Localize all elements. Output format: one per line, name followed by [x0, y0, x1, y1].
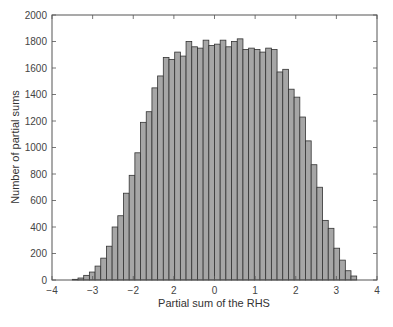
- x-tick-label: −2: [128, 285, 140, 296]
- histogram-bar: [106, 246, 112, 280]
- histogram-bar: [112, 227, 118, 280]
- x-tick-label: −4: [46, 285, 58, 296]
- histogram-bar: [306, 141, 312, 280]
- histogram-bar: [328, 228, 334, 280]
- histogram-bar: [232, 42, 238, 281]
- histogram-bar: [95, 266, 101, 280]
- x-axis-label: Partial sum of the RHS: [158, 297, 270, 309]
- histogram-bar: [203, 40, 209, 280]
- histogram-bar: [84, 275, 90, 280]
- y-tick-label: 600: [30, 195, 47, 206]
- x-tick-label: 2: [293, 285, 299, 296]
- histogram-bar: [215, 44, 221, 280]
- histogram-bar: [283, 69, 289, 280]
- y-axis-label: Number of partial sums: [9, 90, 21, 204]
- x-tick-label: 2: [171, 285, 177, 296]
- histogram-bar: [334, 248, 340, 280]
- histogram-bar: [351, 276, 357, 280]
- y-tick-label: 1000: [25, 142, 48, 153]
- x-tick-label: 0: [212, 285, 218, 296]
- y-tick-label: 0: [41, 275, 47, 286]
- histogram-bar: [175, 52, 181, 280]
- y-tick-label: 200: [30, 248, 47, 259]
- histogram-bar: [118, 216, 124, 280]
- histogram-bar: [141, 122, 147, 280]
- histogram-bar: [288, 89, 294, 280]
- x-tick-label: −3: [87, 285, 99, 296]
- x-tick-label: 1: [252, 285, 258, 296]
- x-tick-label: 3: [334, 285, 340, 296]
- histogram-bar: [345, 271, 351, 280]
- histogram-bar: [169, 59, 175, 280]
- histogram-bar: [260, 52, 266, 280]
- histogram-bar: [266, 48, 272, 280]
- histogram-bar: [129, 175, 135, 280]
- y-tick-label: 1800: [25, 36, 48, 47]
- histogram-bar: [254, 49, 260, 280]
- histogram-bar: [317, 187, 323, 280]
- histogram-bar: [192, 47, 198, 280]
- histogram-bar: [243, 49, 249, 280]
- histogram-bar: [340, 260, 346, 280]
- histogram-bar: [146, 112, 152, 280]
- histogram-bar: [277, 72, 283, 280]
- histogram-bar: [300, 117, 306, 280]
- y-tick-label: 2000: [25, 10, 48, 21]
- histogram-bar: [158, 76, 164, 280]
- histogram-bar: [249, 48, 255, 280]
- histogram-bar: [323, 220, 329, 280]
- histogram-bars: [72, 39, 356, 280]
- histogram-bar: [101, 258, 107, 280]
- histogram-bar: [220, 40, 226, 280]
- histogram-bar: [226, 47, 232, 280]
- histogram-bar: [152, 88, 158, 280]
- histogram-bar: [124, 193, 130, 280]
- histogram-chart: 0200400600800100012001400160018002000 −4…: [0, 0, 393, 327]
- histogram-bar: [197, 48, 203, 280]
- histogram-bar: [237, 39, 243, 280]
- histogram-bar: [271, 49, 277, 280]
- x-tick-label: 4: [374, 285, 380, 296]
- y-tick-label: 400: [30, 222, 47, 233]
- y-tick-label: 1400: [25, 89, 48, 100]
- y-tick-label: 1200: [25, 116, 48, 127]
- histogram-bar: [180, 56, 186, 280]
- histogram-bar: [209, 45, 215, 280]
- y-tick-label: 1600: [25, 63, 48, 74]
- histogram-bar: [311, 165, 317, 280]
- y-tick-label: 800: [30, 169, 47, 180]
- histogram-bar: [294, 97, 300, 280]
- histogram-bar: [186, 42, 192, 281]
- histogram-bar: [163, 57, 169, 280]
- histogram-bar: [135, 153, 141, 280]
